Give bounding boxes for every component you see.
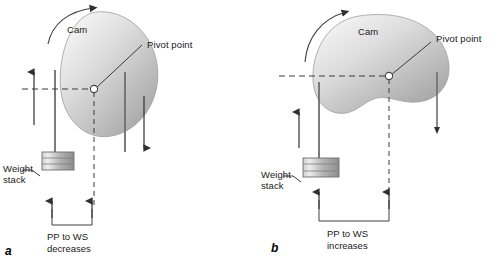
pivot-point-marker	[385, 72, 392, 79]
pivot-point-marker	[90, 85, 97, 92]
panel-b-letter: b	[271, 241, 278, 255]
panel-b: Cam Pivot point Weight stack PP to WS in…	[251, 0, 501, 275]
pivot-point-label: Pivot point	[436, 33, 481, 44]
dimension-bracket	[52, 201, 92, 225]
pivot-point-label: Pivot point	[147, 39, 192, 50]
dimension-bracket	[319, 192, 389, 221]
cam-label: Cam	[67, 24, 87, 35]
panel-a-graphics	[0, 0, 250, 275]
weight-stack-label: Weight stack	[3, 163, 33, 185]
cam-label: Cam	[358, 26, 378, 37]
panel-a-letter: a	[5, 244, 12, 258]
figure-root: Cam Pivot point Weight stack PP to WS de…	[0, 0, 501, 275]
weight-stack-graphic	[303, 158, 339, 177]
weight-stack-label: Weight stack	[261, 169, 291, 191]
panel-a: Cam Pivot point Weight stack PP to WS de…	[0, 0, 250, 275]
force-arrow-down-icon	[434, 127, 440, 134]
panel-b-caption: PP to WS increases	[327, 228, 368, 251]
panel-a-caption: PP to WS decreases	[47, 231, 91, 254]
weight-stack-graphic	[42, 152, 74, 170]
cam-body	[313, 14, 449, 113]
